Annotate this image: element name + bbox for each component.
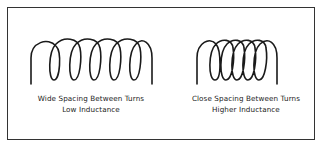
coil-wide-spacing-icon <box>31 39 152 84</box>
caption-title: Wide Spacing Between Turns <box>21 93 161 104</box>
caption-subtitle: Higher Inductance <box>176 104 316 115</box>
caption-close-spacing: Close Spacing Between Turns Higher Induc… <box>176 93 316 115</box>
coil-close-spacing-icon <box>197 40 277 84</box>
coils-illustration <box>0 0 322 147</box>
caption-subtitle: Low Inductance <box>21 104 161 115</box>
caption-wide-spacing: Wide Spacing Between Turns Low Inductanc… <box>21 93 161 115</box>
caption-title: Close Spacing Between Turns <box>176 93 316 104</box>
